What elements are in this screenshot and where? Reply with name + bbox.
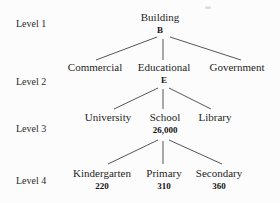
node-secondary-value: 360 — [196, 181, 242, 191]
node-school-value: 26,000 — [150, 125, 181, 135]
level-4-label: Level 4 — [16, 175, 46, 187]
node-government: Government — [210, 61, 265, 73]
node-commercial: Commercial — [68, 61, 122, 73]
node-school: School 26,000 — [150, 111, 181, 135]
level-3-label: Level 3 — [16, 123, 46, 135]
node-library-label: Library — [199, 111, 232, 123]
node-government-label: Government — [210, 61, 265, 73]
node-kindergarten-value: 220 — [73, 181, 131, 191]
node-library: Library — [199, 111, 232, 123]
node-university: University — [85, 111, 131, 123]
level-1-label: Level 1 — [16, 18, 46, 30]
scan-artifact — [205, 6, 211, 9]
node-kindergarten: Kindergarten 220 — [73, 167, 131, 191]
hierarchy-tree-diagram: Level 1 Level 2 Level 3 Level 4 Building… — [0, 0, 280, 203]
node-university-label: University — [85, 111, 131, 123]
node-building-label: Building — [141, 11, 180, 23]
level-2-label: Level 2 — [16, 76, 46, 88]
node-primary-value: 310 — [146, 181, 181, 191]
node-primary-label: Primary — [146, 167, 181, 179]
node-school-label: School — [150, 111, 181, 123]
node-secondary: Secondary 360 — [196, 167, 242, 191]
node-commercial-label: Commercial — [68, 61, 122, 73]
node-educational-label: Educational — [138, 61, 191, 73]
node-educational-code: E — [138, 75, 191, 85]
node-kindergarten-label: Kindergarten — [73, 167, 131, 179]
node-educational: Educational E — [138, 61, 191, 85]
node-building-code: B — [141, 25, 180, 35]
node-secondary-label: Secondary — [196, 167, 242, 179]
node-primary: Primary 310 — [146, 167, 181, 191]
node-building: Building B — [141, 11, 180, 35]
